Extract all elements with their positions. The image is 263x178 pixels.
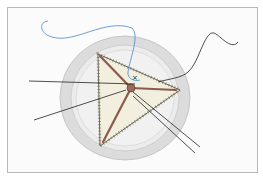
center-knot [127, 84, 135, 92]
valve-illustration: × [0, 0, 263, 178]
knot-cross: × [132, 74, 138, 82]
